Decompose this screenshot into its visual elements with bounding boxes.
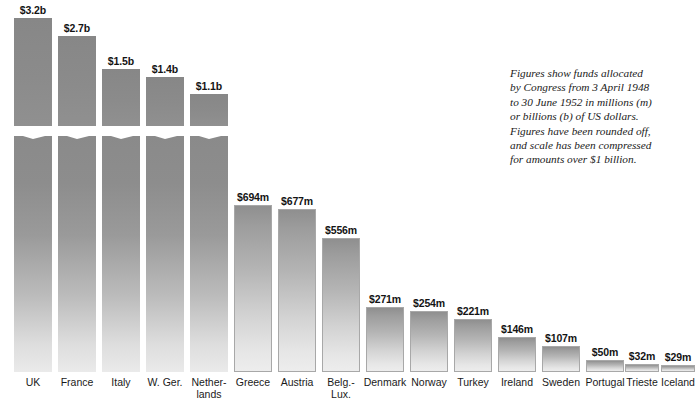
bar-category-label: Turkey — [457, 376, 489, 388]
bar-rect — [366, 307, 404, 372]
bar-category-label-line1: UK — [26, 376, 41, 388]
bar-category-label-line1: Ireland — [501, 376, 533, 388]
bar-group: $694mGreece — [234, 205, 272, 372]
bar-category-label-line1: Greece — [236, 376, 270, 388]
bar-value-label: $29m — [665, 351, 691, 363]
caption-line: for amounts over $1 billion. — [510, 152, 662, 166]
bar-category-label: Austria — [281, 376, 314, 388]
bar-rect-upper — [102, 69, 140, 126]
bar-group: $677mAustria — [278, 209, 316, 372]
bar-category-label-line1: Austria — [281, 376, 314, 388]
caption-line: to 30 June 1952 in millions (m) — [510, 95, 662, 109]
bar-rect — [14, 136, 52, 372]
bar-category-label-line2: lands — [191, 388, 226, 400]
bar-value-label: $677m — [281, 195, 313, 207]
bar-category-label-line1: Italy — [111, 376, 130, 388]
bar-rect — [278, 209, 316, 372]
bar-value-label: $254m — [413, 297, 445, 309]
bar-group: $1.5bItaly — [102, 69, 140, 372]
bar-value-label: $694m — [237, 191, 269, 203]
bar-value-label: $221m — [457, 305, 489, 317]
bar-category-label: Italy — [111, 376, 130, 388]
bar-category-label-line2: Lux. — [327, 388, 354, 400]
bar-value-label: $1.1b — [196, 80, 222, 92]
bar-group: $254mNorway — [410, 311, 448, 372]
bar-category-label: Sweden — [542, 376, 580, 388]
bar-group: $50mPortugal — [586, 360, 624, 372]
bar-group: $107mSweden — [542, 346, 580, 372]
bar-group: $1.4bW. Ger. — [146, 77, 184, 372]
bar-rect — [234, 205, 272, 372]
caption-line: by Congress from 3 April 1948 — [510, 80, 662, 94]
bar-category-label-line1: Nether- — [191, 376, 226, 388]
bar-value-label: $32m — [629, 350, 655, 362]
caption-line: Figures show funds allocated — [510, 66, 662, 80]
bar-category-label-line1: W. Ger. — [147, 376, 182, 388]
bar-rect-upper — [190, 94, 228, 126]
bar-category-label-line1: Belg.- — [327, 376, 354, 388]
bar-rect — [542, 346, 580, 372]
bar-category-label-line1: Turkey — [457, 376, 489, 388]
bar-category-label: W. Ger. — [147, 376, 182, 388]
bar-rect — [58, 136, 96, 372]
bar-rect — [146, 136, 184, 372]
bar-category-label-line1: Portugal — [585, 376, 624, 388]
bar-value-label: $271m — [369, 293, 401, 305]
bar-value-label: $1.5b — [108, 55, 134, 67]
bar-category-label: Norway — [411, 376, 447, 388]
chart-caption: Figures show funds allocatedby Congress … — [510, 66, 662, 167]
bar-category-label: Denmark — [364, 376, 407, 388]
bar-category-label: Trieste — [626, 376, 658, 388]
bar-category-label-line1: Norway — [411, 376, 447, 388]
bar-value-label: $50m — [592, 346, 618, 358]
bar-group: $3.2bUK — [14, 18, 52, 372]
bar-category-label: Iceland — [661, 376, 695, 388]
caption-line: or billions (b) of US dollars. — [510, 109, 662, 123]
bar-group: $32mTrieste — [625, 364, 659, 372]
bar-category-label-line1: Sweden — [542, 376, 580, 388]
bar-group: $2.7bFrance — [58, 36, 96, 372]
bar-category-label: Greece — [236, 376, 270, 388]
bar-group: $29mIceland — [661, 365, 695, 372]
bar-category-label: Ireland — [501, 376, 533, 388]
bar-value-label: $107m — [545, 332, 577, 344]
bar-group: $271mDenmark — [366, 307, 404, 372]
bar-group: $146mIreland — [498, 337, 536, 372]
bar-value-label: $2.7b — [64, 22, 90, 34]
bar-category-label: Belg.-Lux. — [327, 376, 354, 400]
caption-line: and scale has been compressed — [510, 138, 662, 152]
bar-category-label-line1: France — [61, 376, 94, 388]
bar-group: $556mBelg.-Lux. — [322, 238, 360, 372]
bar-rect — [661, 365, 695, 372]
bar-rect — [625, 364, 659, 372]
bar-value-label: $1.4b — [152, 63, 178, 75]
bar-rect — [322, 238, 360, 372]
bar-category-label-line1: Trieste — [626, 376, 658, 388]
bar-rect — [454, 319, 492, 372]
bar-rect — [410, 311, 448, 372]
bar-category-label: Nether-lands — [191, 376, 226, 400]
bar-rect — [102, 136, 140, 372]
bar-value-label: $556m — [325, 224, 357, 236]
bar-rect-upper — [14, 18, 52, 126]
bar-rect — [498, 337, 536, 372]
bar-category-label: UK — [26, 376, 41, 388]
bar-group: $1.1bNether-lands — [190, 94, 228, 372]
bar-category-label: France — [61, 376, 94, 388]
bar-category-label-line1: Iceland — [661, 376, 695, 388]
bar-value-label: $146m — [501, 323, 533, 335]
bar-rect — [586, 360, 624, 372]
bar-category-label: Portugal — [585, 376, 624, 388]
bar-rect — [190, 136, 228, 372]
bar-category-label-line1: Denmark — [364, 376, 407, 388]
bar-rect-upper — [58, 36, 96, 126]
bar-group: $221mTurkey — [454, 319, 492, 372]
bar-rect-upper — [146, 77, 184, 126]
caption-line: Figures have been rounded off, — [510, 124, 662, 138]
bar-value-label: $3.2b — [20, 4, 46, 16]
